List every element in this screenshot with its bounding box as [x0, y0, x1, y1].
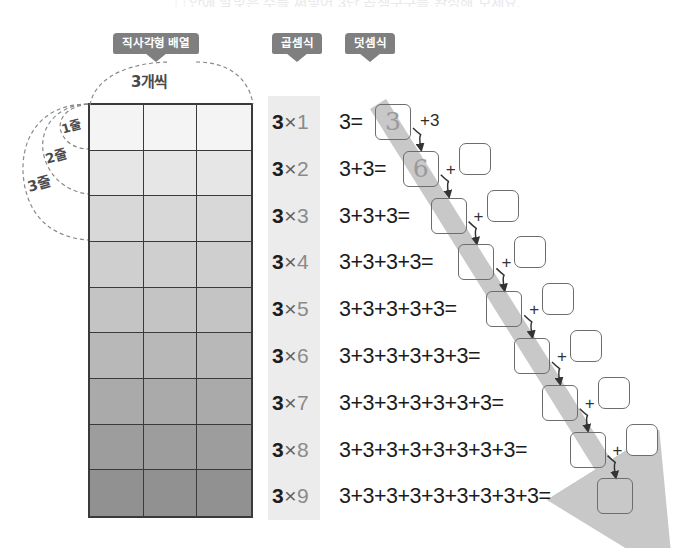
- mult-right: 7: [297, 391, 308, 414]
- mult-left: 3: [272, 438, 283, 461]
- array-cell: [90, 333, 144, 379]
- mult-right: 3: [297, 204, 308, 227]
- step-addend-box[interactable]: [598, 377, 630, 409]
- array-cell: [197, 242, 251, 288]
- badge-rectangular-array: 직사각형 배열: [113, 33, 199, 54]
- array-cell: [90, 151, 144, 197]
- array-cell: [90, 379, 144, 425]
- mult-operator: ×: [284, 250, 296, 273]
- answer-box[interactable]: [542, 385, 578, 421]
- mult-operator: ×: [284, 438, 296, 461]
- array-cell: [90, 470, 144, 516]
- label-columns-3each: 3개씩: [131, 70, 168, 91]
- badge-multiplication-label: 곱셈식: [281, 37, 313, 49]
- array-cell: [197, 333, 251, 379]
- arc-columns-right: [196, 62, 253, 104]
- mult-operator: ×: [284, 204, 296, 227]
- mult-left: 3: [272, 110, 283, 133]
- answer-box[interactable]: [570, 432, 606, 468]
- mult-left: 3: [272, 250, 283, 273]
- rectangular-array-grid: [88, 103, 253, 518]
- mult-right: 5: [297, 297, 308, 320]
- mult-left: 3: [272, 204, 283, 227]
- clipped-instruction-text: □ 안에 알맞은 수를 써넣어 3단 곱셈구구를 완성해 보세요.: [0, 0, 697, 7]
- array-cell: [90, 242, 144, 288]
- addition-expression: 3+3+3+3+3+3+3+3=: [339, 433, 527, 467]
- array-cell: [144, 333, 198, 379]
- step-addend-box[interactable]: [514, 236, 546, 268]
- mult-right: 8: [297, 438, 308, 461]
- step-plus-sign: +: [585, 395, 595, 412]
- answer-box[interactable]: [458, 244, 494, 280]
- mult-operator: ×: [284, 484, 296, 507]
- mult-left: 3: [272, 157, 283, 180]
- addition-expression: 3+3=: [339, 152, 386, 186]
- answer-box[interactable]: [514, 338, 550, 374]
- answer-box[interactable]: [597, 478, 633, 514]
- array-cell: [144, 196, 198, 242]
- mult-right: 1: [297, 110, 308, 133]
- addition-expression: 3+3+3+3+3=: [339, 292, 457, 326]
- badge-addition: 덧셈식: [345, 33, 395, 54]
- multiplication-row: 3×4: [272, 247, 324, 277]
- multiplication-row: 3×5: [272, 294, 324, 324]
- array-cell: [197, 470, 251, 516]
- step-plus-sign: +: [446, 161, 456, 178]
- multiplication-row: 3×2: [272, 154, 324, 184]
- array-cell: [144, 425, 198, 471]
- array-cell: [197, 196, 251, 242]
- mult-operator: ×: [284, 344, 296, 367]
- addition-expression: 3+3+3=: [339, 199, 410, 233]
- addition-expression: 3+3+3+3=: [339, 245, 433, 279]
- mult-right: 2: [297, 157, 308, 180]
- mult-left: 3: [272, 484, 283, 507]
- answer-box[interactable]: 3: [375, 104, 411, 140]
- mult-operator: ×: [284, 297, 296, 320]
- mult-left: 3: [272, 344, 283, 367]
- step-plus-sign: +: [557, 348, 567, 365]
- step-plus3-label: +3: [420, 112, 439, 129]
- answer-box[interactable]: 6: [403, 151, 439, 187]
- mult-right: 9: [297, 484, 308, 507]
- step-plus-sign: +: [613, 442, 623, 459]
- array-cell: [197, 151, 251, 197]
- addition-expression: 3+3+3+3+3+3+3=: [339, 386, 504, 420]
- step-addend-box[interactable]: [459, 143, 491, 175]
- answer-box[interactable]: [486, 291, 522, 327]
- array-cell: [144, 379, 198, 425]
- array-cell: [197, 379, 251, 425]
- step-addend-box[interactable]: [542, 283, 574, 315]
- step-plus-sign: +: [529, 301, 539, 318]
- step-addend-box[interactable]: [487, 190, 519, 222]
- array-cell: [90, 196, 144, 242]
- array-cell: [197, 425, 251, 471]
- array-cell: [144, 470, 198, 516]
- mult-right: 6: [297, 344, 308, 367]
- multiplication-row: 3×6: [272, 341, 324, 371]
- answer-box[interactable]: [431, 198, 467, 234]
- badge-multiplication: 곱셈식: [272, 33, 322, 54]
- addition-expression: 3+3+3+3+3+3=: [339, 339, 480, 373]
- array-cell: [90, 425, 144, 471]
- label-row-1: 1줄: [59, 114, 84, 138]
- multiplication-row: 3×1: [272, 107, 324, 137]
- array-cell: [197, 288, 251, 334]
- addition-expression: 3+3+3+3+3+3+3+3+3=: [339, 479, 551, 513]
- step-addend-box[interactable]: [626, 424, 658, 456]
- array-cell: [144, 105, 198, 151]
- multiplication-row: 3×3: [272, 201, 324, 231]
- step-addend-box[interactable]: [570, 330, 602, 362]
- array-cell: [144, 242, 198, 288]
- worksheet-page: □ 안에 알맞은 수를 써넣어 3단 곱셈구구를 완성해 보세요. 직사각형 배…: [0, 0, 697, 548]
- array-cell: [144, 151, 198, 197]
- badge-addition-label: 덧셈식: [354, 37, 386, 49]
- mult-left: 3: [272, 297, 283, 320]
- array-cell: [90, 105, 144, 151]
- multiplication-row: 3×8: [272, 435, 324, 465]
- label-row-2: 2줄: [43, 142, 69, 167]
- label-row-3: 3줄: [25, 169, 53, 196]
- step-arrow: [413, 128, 421, 148]
- mult-operator: ×: [284, 157, 296, 180]
- array-cell: [197, 105, 251, 151]
- multiplication-row: 3×7: [272, 388, 324, 418]
